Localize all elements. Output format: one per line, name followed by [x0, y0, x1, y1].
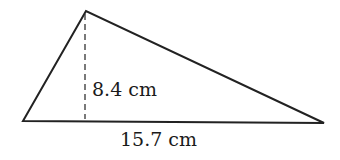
triangle-figure: 8.4 cm 15.7 cm — [0, 0, 340, 160]
triangle-diagram: 8.4 cm 15.7 cm — [0, 0, 340, 160]
height-label: 8.4 cm — [92, 78, 157, 100]
triangle-outline — [23, 11, 324, 123]
base-label: 15.7 cm — [120, 128, 197, 150]
